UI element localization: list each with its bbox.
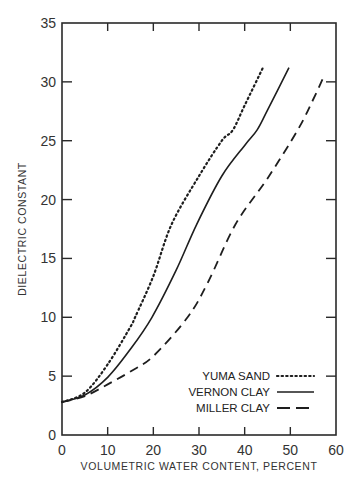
series-vernon-clay [62, 68, 289, 402]
y-tick-label: 10 [40, 309, 56, 325]
x-tick-label: 40 [237, 442, 253, 458]
plot-border [62, 23, 336, 435]
y-tick-label: 15 [40, 250, 56, 266]
series-yuma-sand [62, 68, 263, 402]
y-tick-label: 0 [48, 427, 56, 443]
x-tick-label: 20 [146, 442, 162, 458]
y-tick-label: 25 [40, 133, 56, 149]
x-tick-label: 50 [283, 442, 299, 458]
x-axis-title: VOLUMETRIC WATER CONTENT, PERCENT [81, 460, 318, 472]
y-tick-label: 20 [40, 192, 56, 208]
plot-frame [62, 23, 336, 435]
y-axis-ticks: 05101520253035 [40, 15, 336, 443]
dielectric-chart: 0102030405060 05101520253035 YUMA SANDVE… [0, 0, 359, 490]
y-tick-label: 5 [48, 368, 56, 384]
legend-label: MILLER CLAY [196, 402, 270, 414]
series-miller-clay [62, 75, 325, 402]
y-tick-label: 30 [40, 74, 56, 90]
x-tick-label: 30 [191, 442, 207, 458]
legend-label: VERNON CLAY [188, 386, 270, 398]
y-axis-title: DIELECTRIC CONSTANT [16, 162, 28, 296]
legend-label: YUMA SAND [202, 370, 270, 382]
x-tick-label: 10 [100, 442, 116, 458]
x-tick-label: 60 [328, 442, 344, 458]
legend: YUMA SANDVERNON CLAYMILLER CLAY [188, 370, 314, 414]
x-tick-label: 0 [58, 442, 66, 458]
series-layer [62, 68, 325, 402]
y-tick-label: 35 [40, 15, 56, 31]
